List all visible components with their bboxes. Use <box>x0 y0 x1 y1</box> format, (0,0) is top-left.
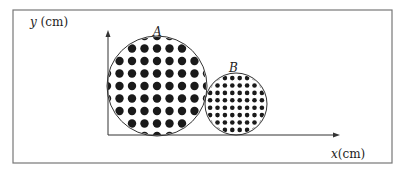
particle-dot <box>245 83 250 88</box>
particle-dot <box>178 57 186 65</box>
circle-a-label: A <box>152 25 162 39</box>
circle-b <box>205 73 267 135</box>
particle-dot <box>165 82 173 90</box>
particle-dot <box>208 113 213 118</box>
particle-dot <box>230 113 235 118</box>
particle-dot <box>178 69 186 77</box>
x-axis-label: x(cm) <box>331 147 365 161</box>
particle-dot <box>223 128 228 133</box>
particle-dot <box>260 105 265 110</box>
particle-dot <box>230 91 235 96</box>
particle-dot <box>153 94 161 102</box>
particle-dot <box>252 120 257 125</box>
particle-dot <box>260 113 265 118</box>
particle-dot <box>237 98 242 103</box>
particle-dot <box>153 44 161 52</box>
particle-dot <box>140 82 148 90</box>
particle-dot <box>252 91 257 96</box>
particle-dot <box>190 57 198 65</box>
particle-dot <box>223 91 228 96</box>
particle-dot <box>128 82 136 90</box>
particle-dot <box>237 120 242 125</box>
particle-dot <box>215 98 220 103</box>
particle-dot <box>237 128 242 133</box>
particle-dot <box>140 94 148 102</box>
particle-dot <box>237 105 242 110</box>
particle-dot <box>140 69 148 77</box>
particle-dot <box>245 91 250 96</box>
particle-dot <box>223 120 228 125</box>
particle-dot <box>178 107 186 115</box>
particle-dot <box>153 82 161 90</box>
particle-dot <box>208 105 213 110</box>
particle-dot <box>153 69 161 77</box>
x-axis-arrow-icon <box>333 133 340 138</box>
y-axis <box>106 30 111 135</box>
particle-dot <box>115 69 123 77</box>
particle-dot <box>230 105 235 110</box>
particle-dot <box>128 69 136 77</box>
particle-dot <box>245 105 250 110</box>
particle-dot <box>208 91 213 96</box>
particle-dot <box>165 107 173 115</box>
particle-dot <box>237 91 242 96</box>
particle-dot <box>208 98 213 103</box>
particle-dot <box>115 82 123 90</box>
particle-dot <box>165 94 173 102</box>
particle-dot <box>165 69 173 77</box>
particle-dot <box>223 83 228 88</box>
particle-dot <box>115 94 123 102</box>
particle-dot <box>215 105 220 110</box>
particle-dot <box>252 83 257 88</box>
particle-dot <box>230 76 235 81</box>
x-axis <box>108 133 340 138</box>
particle-dot <box>178 44 186 52</box>
particle-dot <box>115 57 123 65</box>
particle-dot <box>190 107 198 115</box>
particle-dot <box>190 69 198 77</box>
circle-b-label: B <box>228 61 238 75</box>
particle-dot <box>223 98 228 103</box>
particle-dot <box>178 119 186 127</box>
y-axis-label: y (cm) <box>29 15 68 29</box>
particle-dot <box>128 44 136 52</box>
particle-dot <box>215 83 220 88</box>
particle-dot <box>245 128 250 133</box>
particle-dot <box>230 98 235 103</box>
particle-dot <box>165 119 173 127</box>
particle-dot <box>128 107 136 115</box>
particle-dot <box>252 105 257 110</box>
particle-dot <box>252 113 257 118</box>
particle-dot <box>128 57 136 65</box>
particle-dot <box>153 57 161 65</box>
particle-dot <box>140 107 148 115</box>
circle-a <box>103 32 211 140</box>
particle-dot <box>223 113 228 118</box>
particle-dot <box>215 120 220 125</box>
particle-dot <box>237 76 242 81</box>
particle-dot <box>190 82 198 90</box>
particle-dot <box>237 83 242 88</box>
particle-dot <box>245 120 250 125</box>
particle-dot <box>260 91 265 96</box>
particle-dot <box>252 98 257 103</box>
particle-dot <box>128 94 136 102</box>
circle-a-dots <box>103 32 211 140</box>
particle-dot <box>190 94 198 102</box>
particle-dot <box>178 82 186 90</box>
particle-dot <box>230 120 235 125</box>
particle-dot <box>223 76 228 81</box>
particle-dot <box>245 76 250 81</box>
particle-dot <box>215 113 220 118</box>
particle-dot <box>140 44 148 52</box>
particle-dot <box>245 98 250 103</box>
particle-dot <box>223 105 228 110</box>
frame-border <box>13 10 392 163</box>
particle-dot <box>165 57 173 65</box>
particle-dot <box>128 119 136 127</box>
particle-dot <box>165 44 173 52</box>
particle-dot <box>153 107 161 115</box>
particle-dot <box>178 94 186 102</box>
particle-dot <box>153 119 161 127</box>
particle-dot <box>140 119 148 127</box>
